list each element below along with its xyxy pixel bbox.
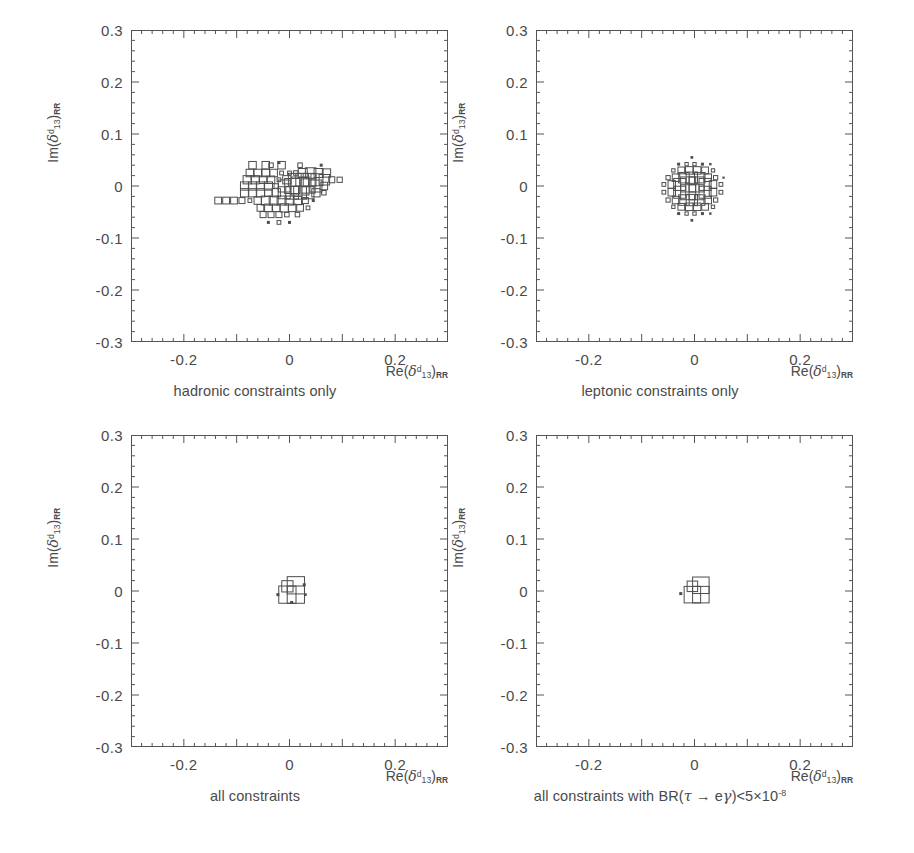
y-tick-label: -0.1 [474, 635, 528, 652]
y-tick-label: 0.1 [474, 531, 528, 548]
y-tick-label: 0.2 [474, 479, 528, 496]
plot-area-all-tau-egamma [536, 435, 853, 747]
y-axis-label: Im(δd13)RR [450, 508, 467, 568]
histogram-box [679, 592, 682, 595]
x-tick-label: -0.2 [575, 756, 602, 773]
data-boxes [679, 577, 709, 603]
panel-all-tau-egamma: 0.30.20.10-0.1-0.2-0.3-0.200.2Im(δd13)RR… [0, 0, 914, 853]
panel-caption-all-tau-egamma: all constraints with BR(τ → eγ)<5×10-8 [534, 788, 786, 804]
figure-root: 0.30.20.10-0.1-0.2-0.3-0.200.2Im(δd13)RR… [0, 0, 914, 853]
y-tick-label: -0.2 [474, 687, 528, 704]
y-tick-label: -0.3 [474, 739, 528, 756]
y-tick-label: 0.3 [474, 427, 528, 444]
plot-frame [537, 436, 853, 747]
x-axis-label: Re(δd13)RR [733, 768, 853, 785]
y-tick-label: 0 [474, 583, 528, 600]
x-tick-label: 0 [690, 756, 699, 773]
